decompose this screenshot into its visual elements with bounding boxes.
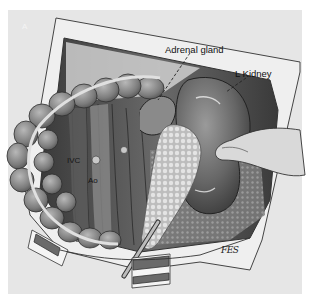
label-left-kidney: L Kidney <box>235 69 272 79</box>
surgical-illustration <box>0 0 311 304</box>
label-adrenal-gland: Adrenal gland <box>165 45 224 55</box>
label-ivc: IVC <box>67 157 80 165</box>
artist-signature: FES <box>221 245 238 255</box>
panel-letter: A <box>22 22 27 31</box>
label-aorta: Ao <box>88 177 98 185</box>
